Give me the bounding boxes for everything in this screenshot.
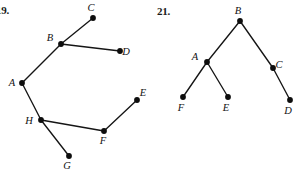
- graph-vertex-F: [180, 94, 186, 100]
- graph-vertex-D: [287, 97, 293, 103]
- graph-edge-FE: [104, 100, 137, 131]
- graph-vertex-B: [237, 18, 243, 24]
- graph-vertex-label-B: B: [47, 32, 54, 43]
- graph-vertex-label-F: F: [99, 135, 107, 146]
- graph-vertex-label-A: A: [191, 51, 199, 62]
- graph-edge-HF: [41, 120, 104, 131]
- graph-edge-BC: [240, 21, 273, 68]
- graph-diagrams: ABCDEFGHBACFED: [0, 0, 303, 175]
- figure-page: 19. 21. ABCDEFGHBACFED: [0, 0, 303, 175]
- graph-vertex-A: [204, 59, 210, 65]
- graph-vertex-label-D: D: [283, 105, 292, 116]
- graph-edge-CD: [273, 68, 290, 100]
- problem-19-graph: ABCDEFGH: [8, 2, 147, 171]
- graph-vertex-E: [225, 94, 231, 100]
- graph-vertex-B: [58, 41, 64, 47]
- problem-21-graph: BACFED: [177, 5, 293, 116]
- graph-edge-BC: [61, 18, 93, 44]
- graph-edge-AE: [207, 62, 228, 97]
- graph-edge-HG: [41, 120, 69, 156]
- graph-edge-AF: [183, 62, 207, 97]
- graph-vertex-C: [90, 15, 96, 21]
- graph-vertex-A: [19, 80, 25, 86]
- graph-vertex-label-A: A: [8, 77, 16, 88]
- graph-vertex-G: [66, 153, 72, 159]
- graph-vertex-F: [101, 128, 107, 134]
- graph-edge-BD: [61, 44, 120, 51]
- graph-vertex-label-C: C: [275, 59, 283, 70]
- graph-edge-BA: [207, 21, 240, 62]
- graph-vertex-label-G: G: [63, 160, 71, 171]
- graph-vertex-label-C: C: [87, 2, 95, 13]
- graph-vertex-label-H: H: [24, 115, 34, 126]
- graph-vertex-label-D: D: [121, 46, 130, 57]
- graph-edge-AB: [22, 44, 61, 83]
- graph-vertex-H: [38, 117, 44, 123]
- graph-vertex-label-F: F: [177, 102, 185, 113]
- graph-vertex-label-E: E: [222, 102, 230, 113]
- graph-vertex-label-B: B: [235, 5, 242, 16]
- graph-vertex-label-E: E: [139, 87, 147, 98]
